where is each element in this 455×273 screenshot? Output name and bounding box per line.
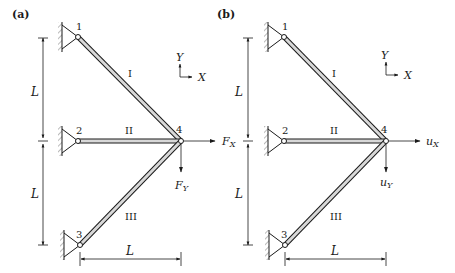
dim-label-upper: L xyxy=(234,85,243,99)
node-label-3: 3 xyxy=(76,229,82,240)
node-2 xyxy=(76,139,81,144)
member-label-III: III xyxy=(330,211,342,222)
dim-label-horizontal: L xyxy=(125,244,134,258)
panel-label-a: (a) xyxy=(12,8,30,21)
node-1 xyxy=(76,35,81,40)
displacement-y-label: uY xyxy=(380,176,393,190)
member-label-I: I xyxy=(128,68,132,79)
dim-label-upper: L xyxy=(30,85,39,99)
axis-label-y: Y xyxy=(176,51,185,64)
member-III xyxy=(80,141,181,245)
node-label-4: 4 xyxy=(176,124,182,135)
dim-label-horizontal: L xyxy=(330,244,339,258)
dimension-vertical xyxy=(38,38,48,245)
truss-figure: (a) L L L xyxy=(0,0,455,273)
node-3 xyxy=(78,243,83,248)
coordinate-axes-icon xyxy=(386,62,398,75)
node-label-1: 1 xyxy=(282,21,288,32)
member-III xyxy=(285,141,386,245)
displacement-x-label: uX xyxy=(426,135,439,149)
axis-label-y: Y xyxy=(381,49,390,62)
node-label-4: 4 xyxy=(381,124,387,135)
node-label-2: 2 xyxy=(76,125,82,136)
node-2 xyxy=(282,139,287,144)
member-label-III: III xyxy=(125,211,137,222)
member-label-I: I xyxy=(332,68,336,79)
dimension-vertical xyxy=(243,38,253,245)
axis-label-x: X xyxy=(197,71,207,84)
node-1 xyxy=(282,35,287,40)
node-label-1: 1 xyxy=(76,21,82,32)
panel-label-b: (b) xyxy=(217,8,235,21)
node-3 xyxy=(283,243,288,248)
panel-b: (b) L L L xyxy=(217,8,439,266)
panel-a: (a) L L L xyxy=(12,8,236,266)
dim-label-lower: L xyxy=(234,187,243,201)
member-label-II: II xyxy=(330,125,338,136)
force-y-label: FY xyxy=(174,179,189,193)
node-label-2: 2 xyxy=(282,125,288,136)
coordinate-axes-icon xyxy=(180,64,192,77)
force-x-label: FX xyxy=(221,135,236,149)
member-label-II: II xyxy=(125,125,133,136)
node-4 xyxy=(384,139,389,144)
node-label-3: 3 xyxy=(281,229,287,240)
node-4 xyxy=(179,139,184,144)
axis-label-x: X xyxy=(403,69,413,82)
dim-label-lower: L xyxy=(30,187,39,201)
